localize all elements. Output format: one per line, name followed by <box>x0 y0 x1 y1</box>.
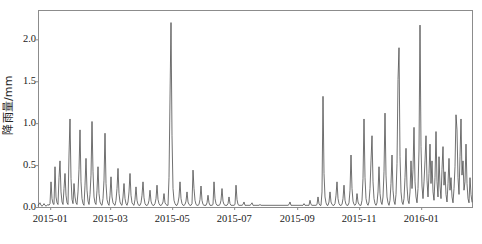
axes-frame <box>39 11 473 208</box>
rainfall-time-series-chart: 降雨量/mm 0.00.51.01.52.0 2015-012015-03201… <box>0 0 482 244</box>
frame-rect <box>39 11 473 208</box>
plot-area <box>0 0 482 244</box>
y-tick-marks <box>35 40 38 208</box>
rainfall-series-line <box>38 23 472 207</box>
